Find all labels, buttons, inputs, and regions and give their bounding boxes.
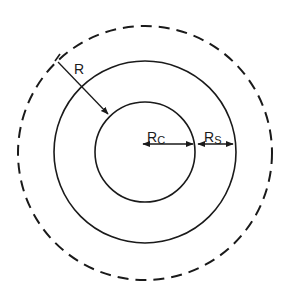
inner-core-circle: [95, 102, 195, 202]
radius-r-label: R: [74, 61, 84, 77]
core-radius-label: RC: [147, 129, 165, 146]
outer-dashed-circle: [18, 26, 272, 280]
shell-thickness-label: RS: [204, 129, 221, 146]
concentric-radii-diagram: R RC RS: [0, 0, 283, 300]
outer-solid-circle: [54, 61, 236, 243]
